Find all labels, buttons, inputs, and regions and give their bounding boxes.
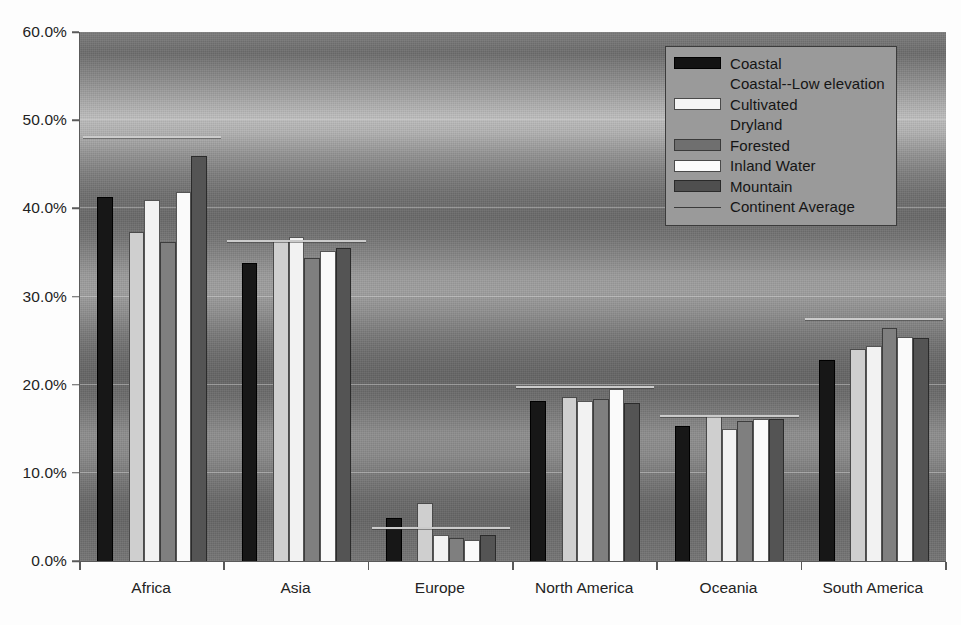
bar[interactable] [866, 346, 882, 561]
bar-set [242, 32, 352, 561]
bar[interactable] [417, 503, 433, 561]
legend-item-label: Continent Average [730, 198, 855, 215]
bar[interactable] [464, 540, 480, 561]
bar-group [369, 32, 513, 561]
bar[interactable] [850, 349, 866, 561]
x-axis-tick-mark [368, 562, 370, 570]
legend-color-swatch-icon [674, 139, 721, 151]
legend-item[interactable]: Forested [674, 135, 888, 156]
bar[interactable] [320, 251, 336, 561]
bar[interactable] [609, 389, 625, 561]
bar[interactable] [176, 192, 192, 561]
bar[interactable] [191, 156, 207, 561]
chart-figure: 0.0%10.0%20.0%30.0%40.0%50.0%60.0% Afric… [0, 0, 961, 625]
legend-item-label: Coastal [730, 55, 782, 72]
bar[interactable] [289, 237, 305, 561]
bar[interactable] [675, 426, 691, 561]
continent-average-line [660, 415, 799, 417]
y-axis-tick-label: 30.0% [23, 288, 67, 306]
continent-average-line [83, 136, 222, 138]
legend-item-label: Forested [730, 137, 790, 154]
y-axis-tick-mark [72, 560, 79, 562]
bar-set [97, 32, 207, 561]
legend-item[interactable]: Inland Water [674, 156, 888, 177]
y-axis-tick-mark [72, 31, 79, 33]
y-axis-tick-mark [72, 208, 79, 210]
x-axis-tick-mark [79, 562, 81, 570]
bar[interactable] [97, 197, 113, 561]
y-axis-tick-mark [72, 296, 79, 298]
bar[interactable] [144, 200, 160, 561]
x-axis-tick-label: Africa [79, 562, 223, 612]
bar[interactable] [577, 401, 593, 561]
bar[interactable] [737, 421, 753, 561]
y-axis-tick-mark [72, 119, 79, 121]
bar[interactable] [593, 399, 609, 561]
legend-item[interactable]: Dryland [674, 115, 888, 136]
legend-item-label: Dryland [730, 116, 782, 133]
x-axis-tick-label: South America [801, 562, 945, 612]
y-axis-tick-label: 20.0% [23, 376, 67, 394]
y-axis-tick-label: 10.0% [23, 464, 67, 482]
continent-average-line [805, 318, 944, 320]
continent-average-line [227, 240, 366, 242]
legend-color-swatch-icon [674, 57, 721, 69]
bar[interactable] [913, 338, 929, 561]
legend-color-swatch-icon [674, 98, 721, 110]
x-axis-tick-label: North America [512, 562, 656, 612]
x-axis-tick-label: Oceania [656, 562, 800, 612]
bar[interactable] [769, 419, 785, 561]
bar[interactable] [242, 263, 258, 561]
y-axis: 0.0%10.0%20.0%30.0%40.0%50.0%60.0% [0, 0, 79, 625]
bar-group [80, 32, 224, 561]
legend-item[interactable]: Coastal [674, 53, 888, 74]
legend-color-swatch-icon [674, 160, 721, 172]
continent-average-line [516, 386, 655, 388]
bar[interactable] [304, 258, 320, 561]
x-axis-tick-mark [512, 562, 514, 570]
bar[interactable] [129, 232, 145, 561]
bar[interactable] [882, 328, 898, 561]
bar[interactable] [480, 535, 496, 561]
bar-set [530, 32, 640, 561]
bar-group [513, 32, 657, 561]
x-axis-tick-mark [223, 562, 225, 570]
y-axis-tick-label: 40.0% [23, 199, 67, 217]
legend-item[interactable]: Mountain [674, 176, 888, 197]
continent-average-line [372, 527, 511, 529]
x-axis-tick-mark [801, 562, 803, 570]
x-axis: AfricaAsiaEuropeNorth AmericaOceaniaSout… [79, 562, 945, 612]
legend-item-label: Coastal--Low elevation [730, 75, 885, 92]
x-axis-tick-label: Europe [368, 562, 512, 612]
y-axis-tick-label: 0.0% [31, 552, 67, 570]
y-axis-tick-mark [72, 472, 79, 474]
y-axis-tick-mark [72, 384, 79, 386]
bar[interactable] [449, 538, 465, 561]
bar-group [224, 32, 368, 561]
bar[interactable] [819, 360, 835, 561]
bar[interactable] [160, 242, 176, 561]
x-axis-tick-mark [945, 562, 947, 570]
legend-item[interactable]: Coastal--Low elevation [674, 74, 888, 95]
bar[interactable] [530, 401, 546, 561]
legend-item[interactable]: Cultivated [674, 94, 888, 115]
bar[interactable] [562, 397, 578, 561]
legend-line-swatch-icon [674, 201, 721, 213]
bar[interactable] [722, 429, 738, 561]
legend-color-swatch-icon [674, 119, 721, 131]
bar[interactable] [433, 535, 449, 561]
legend-item-label: Inland Water [730, 157, 816, 174]
y-axis-tick-label: 60.0% [23, 23, 67, 41]
bar[interactable] [706, 416, 722, 561]
bar[interactable] [336, 248, 352, 561]
x-axis-tick-mark [656, 562, 658, 570]
bar[interactable] [897, 337, 913, 561]
x-axis-tick-label: Asia [223, 562, 367, 612]
legend-item-label: Mountain [730, 178, 793, 195]
bar[interactable] [753, 419, 769, 561]
bar-set [386, 32, 496, 561]
bar[interactable] [273, 241, 289, 561]
bar[interactable] [386, 518, 402, 561]
legend-item[interactable]: Continent Average [674, 197, 888, 218]
bar[interactable] [624, 403, 640, 561]
